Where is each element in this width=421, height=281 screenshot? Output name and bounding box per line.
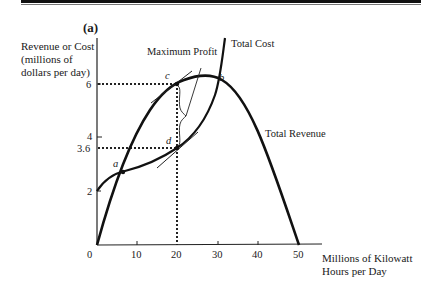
point-a-marker [121,170,125,174]
max-profit-label: Maximum Profit [147,46,217,57]
svg-text:2: 2 [87,186,92,197]
y-tick-labels: 6 4 3.6 2 [77,79,93,197]
max-profit-brace [178,86,186,146]
svg-text:30: 30 [212,249,223,260]
total-revenue-curve [97,76,299,246]
max-profit-pointer [186,68,201,116]
svg-text:10: 10 [131,249,142,260]
point-d-label: d [166,135,172,146]
tangent-at-c [151,71,192,103]
point-d-marker [175,146,179,150]
reference-lines [98,84,177,245]
point-b-label: b [219,72,224,83]
point-c-label: c [165,70,170,81]
total-cost-label: Total Cost [231,38,274,49]
chart-canvas: 6 4 3.6 2 0 10 20 30 40 50 a b c d Maxim [0,0,421,281]
x-axis [97,244,322,245]
point-a-label: a [113,158,118,169]
point-c-marker [175,82,179,86]
svg-text:50: 50 [293,249,304,260]
svg-text:4: 4 [87,131,93,142]
total-revenue-label: Total Revenue [265,128,326,139]
svg-text:6: 6 [86,79,91,90]
svg-text:40: 40 [252,249,263,260]
x-tick-labels: 0 10 20 30 40 50 [87,249,304,260]
svg-text:3.6: 3.6 [77,143,90,154]
svg-text:20: 20 [171,249,182,260]
y-ticks [97,84,102,191]
svg-text:0: 0 [87,249,92,260]
